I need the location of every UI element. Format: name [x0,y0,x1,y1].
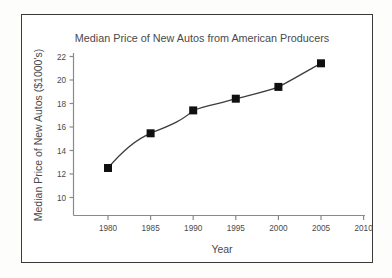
x-tick-label: 2000 [269,224,288,233]
data-line-series-1 [108,63,321,168]
y-tick-label: 18 [57,100,67,109]
x-axis-tick-labels: 1980 1985 1990 1995 2000 2005 2010 [99,224,373,233]
y-tick-label: 10 [57,194,67,203]
data-point-marker [189,106,197,114]
x-axis-title: Year [211,243,233,255]
x-tick-label: 1990 [184,224,203,233]
y-axis-title: Median Price of New Autos ($1000's) [32,49,44,221]
data-point-marker [317,59,325,67]
data-point-marker [232,95,240,103]
line-chart: Median Price of New Autos from American … [22,15,374,264]
y-tick-label: 12 [57,170,67,179]
data-point-marker [274,83,282,91]
y-tick-label: 16 [57,123,67,132]
data-point-markers [104,59,325,172]
x-tick-label: 1995 [227,224,246,233]
y-tick-label: 22 [57,53,67,62]
x-tick-label: 1985 [141,224,160,233]
data-point-marker [147,129,155,137]
figure-canvas: Median Price of New Autos from American … [0,0,392,278]
y-tick-label: 14 [57,147,67,156]
x-tick-label: 2010 [354,224,373,233]
x-tick-label: 1980 [99,224,118,233]
y-tick-label: 20 [57,76,67,85]
chart-title: Median Price of New Autos from American … [75,32,330,44]
x-tick-label: 2005 [312,224,331,233]
chart-frame-border: Median Price of New Autos from American … [21,14,373,263]
y-axis-tick-labels: 22 20 18 16 14 12 10 [57,53,67,203]
x-axis-ticks [108,216,364,221]
data-point-marker [104,164,112,172]
